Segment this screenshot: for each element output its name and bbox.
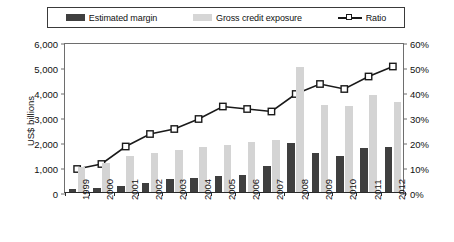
plot-area: 01,0002,0003,0004,0005,0006,0000%10%20%3… <box>64 43 404 193</box>
bar-estimated-margin <box>166 179 174 192</box>
bar-gross-credit-exposure <box>369 95 377 193</box>
ratio-line-series <box>65 44 405 194</box>
x-axis-tick-label: 2006 <box>250 179 261 200</box>
x-axis-tick-label: 2012 <box>396 179 407 200</box>
x-axis-tick-label: 2002 <box>153 179 164 200</box>
x-axis-tick-label: 1999 <box>80 179 91 200</box>
chart-legend: Estimated margin Gross credit exposure R… <box>47 7 405 28</box>
ratio-data-point-marker <box>365 73 371 79</box>
secondary-y-axis-tick-mark <box>403 44 407 45</box>
legend-label-gross-credit-exposure: Gross credit exposure <box>216 13 302 23</box>
x-axis-tick-label: 2010 <box>347 179 358 200</box>
secondary-y-axis-tick-mark <box>403 144 407 145</box>
ratio-data-point-marker <box>123 143 129 149</box>
x-axis-tick-label: 2005 <box>226 179 237 200</box>
bar-estimated-margin <box>69 189 77 192</box>
ratio-data-point-marker <box>390 63 396 69</box>
legend-item-ratio: Ratio <box>338 13 387 23</box>
x-axis-tick-label: 2007 <box>274 179 285 200</box>
x-axis-tick-label: 2003 <box>177 179 188 200</box>
ratio-data-point-marker <box>244 106 250 112</box>
x-axis-tick-label: 2001 <box>129 179 140 200</box>
legend-label-ratio: Ratio <box>366 13 387 23</box>
y-axis-tick-mark <box>61 144 65 145</box>
line-marker-swatch-icon <box>338 13 362 22</box>
y-axis-tick-mark <box>61 94 65 95</box>
x-axis-labels: 1999200020012002200320042005200620072008… <box>64 193 404 242</box>
x-axis-tick-label: 2000 <box>104 179 115 200</box>
ratio-data-point-marker <box>147 131 153 137</box>
bar-gross-credit-exposure <box>296 67 304 192</box>
dark-bar-swatch-icon <box>66 14 85 21</box>
bar-estimated-margin <box>190 178 198 193</box>
ratio-data-point-marker <box>317 81 323 87</box>
ratio-data-point-marker <box>195 116 201 122</box>
y-axis-tick-mark <box>61 69 65 70</box>
secondary-y-axis-tick-mark <box>403 94 407 95</box>
secondary-y-axis-tick-mark <box>403 169 407 170</box>
bar-estimated-margin <box>239 175 247 192</box>
y-axis-tick-mark <box>61 169 65 170</box>
x-axis-tick-label: 2009 <box>323 179 334 200</box>
legend-label-estimated-margin: Estimated margin <box>89 13 157 23</box>
legend-item-estimated-margin: Estimated margin <box>66 13 157 23</box>
ratio-data-point-marker <box>171 126 177 132</box>
chart-container: Estimated margin Gross credit exposure R… <box>0 0 454 242</box>
light-bar-swatch-icon <box>193 14 212 21</box>
legend-item-gross-credit-exposure: Gross credit exposure <box>193 13 302 23</box>
secondary-y-axis-tick-mark <box>403 69 407 70</box>
x-axis-tick-label: 2008 <box>299 179 310 200</box>
ratio-data-point-marker <box>268 108 274 114</box>
y-axis-tick-mark <box>61 44 65 45</box>
secondary-y-axis-tick-mark <box>403 119 407 120</box>
bar-estimated-margin <box>142 183 150 192</box>
ratio-data-point-marker <box>220 103 226 109</box>
ratio-data-point-marker <box>341 86 347 92</box>
bar-estimated-margin <box>287 143 295 192</box>
bar-estimated-margin <box>360 148 368 193</box>
bar-estimated-margin <box>336 156 344 192</box>
bar-estimated-margin <box>312 153 320 192</box>
bar-estimated-margin <box>215 176 223 193</box>
bar-estimated-margin <box>93 188 101 193</box>
y-axis-tick-mark <box>61 119 65 120</box>
x-axis-tick-label: 2004 <box>202 179 213 200</box>
bar-estimated-margin <box>385 147 393 192</box>
x-axis-tick-label: 2011 <box>372 180 383 200</box>
bar-estimated-margin <box>263 166 271 192</box>
bar-estimated-margin <box>117 186 125 193</box>
